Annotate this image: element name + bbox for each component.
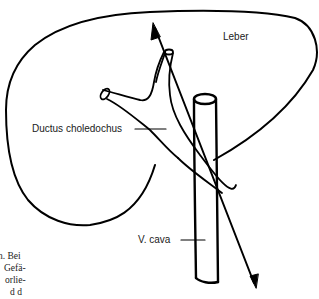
- vena-cava-bottom: [196, 278, 218, 283]
- vena-cava-top: [194, 94, 216, 104]
- bile-duct-right-branch-2: [169, 53, 236, 189]
- side-text-line: d d: [10, 286, 22, 299]
- arrow-head-top-icon: [151, 23, 160, 40]
- bile-duct-left-opening: [99, 87, 112, 101]
- liver-label: Leber: [223, 32, 249, 42]
- bile-duct-right-opening: [165, 50, 173, 55]
- vena-cava-left-wall: [194, 99, 196, 278]
- bile-duct-left-branch: [103, 52, 164, 100]
- vena-cava-label: V. cava: [138, 235, 170, 245]
- arrow-head-bottom-icon: [250, 274, 258, 288]
- bile-duct-label: Ductus choledochus: [32, 124, 122, 134]
